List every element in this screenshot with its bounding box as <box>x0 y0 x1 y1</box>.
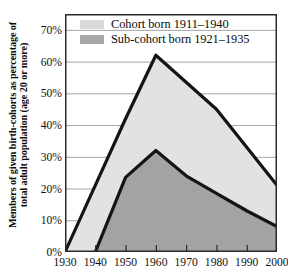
chart-figure: Members of given birth-cohorts as percen… <box>0 0 288 278</box>
legend-label-cohort: Cohort born 1911–1940 <box>111 17 229 32</box>
legend-swatch-cohort <box>80 20 104 29</box>
legend-item-subcohort: Sub-cohort born 1921–1935 <box>80 32 270 47</box>
x-tick-label: 2000 <box>257 256 288 269</box>
legend-swatch-subcohort <box>80 35 104 44</box>
legend-item-cohort: Cohort born 1911–1940 <box>80 17 270 32</box>
legend-label-subcohort: Sub-cohort born 1921–1935 <box>111 32 249 47</box>
chart-legend: Cohort born 1911–1940 Sub-cohort born 19… <box>80 17 270 47</box>
